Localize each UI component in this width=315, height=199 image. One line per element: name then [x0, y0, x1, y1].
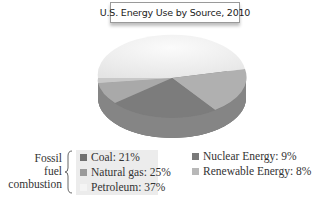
legend-item-coal: Coal: 21%: [80, 151, 140, 163]
legend-item-natural-gas: Natural gas: 25%: [80, 166, 171, 178]
fossil-fuel-label: Fossil fuel combustion: [0, 152, 62, 191]
legend-item-renewable: Renewable Energy: 8%: [192, 165, 311, 177]
chart-title: U.S. Energy Use by Source, 2010: [110, 2, 240, 23]
legend-item-petroleum: Petroleum: 37%: [80, 181, 165, 193]
legend-swatch-petroleum: [80, 184, 87, 191]
legend-swatch-renewable: [192, 168, 199, 175]
legend-swatch-coal: [80, 154, 87, 161]
brace-icon: [64, 150, 74, 194]
legend-swatch-nuclear: [192, 153, 199, 160]
legend-swatch-natural-gas: [80, 169, 87, 176]
slice-petroleum: [98, 35, 245, 78]
pie-chart: [95, 33, 250, 148]
legend-item-nuclear: Nuclear Energy: 9%: [192, 150, 297, 162]
